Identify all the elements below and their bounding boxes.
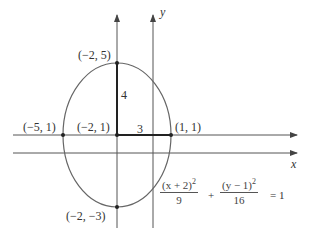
equation-term-1: (x + 2)2 9 [160, 178, 198, 206]
equation-term-2: (y − 1)2 16 [220, 178, 258, 206]
point-top [115, 61, 119, 65]
label-center-point: (−2, 1) [77, 121, 110, 133]
exponent: 2 [252, 177, 256, 186]
point-left [61, 133, 65, 137]
label-left-point: (−5, 1) [23, 121, 56, 133]
semi-major-label: 4 [121, 89, 127, 101]
ellipse-equation: (x + 2)2 9 + (y − 1)2 16 = 1 [160, 178, 310, 212]
term1-numerator: (x + 2) [162, 179, 192, 191]
equation-rhs: = 1 [270, 190, 284, 201]
label-right-point: (1, 1) [175, 121, 201, 133]
label-top-point: (−2, 5) [78, 49, 111, 61]
point-right [169, 133, 173, 137]
term2-denominator: 16 [234, 193, 245, 206]
exponent: 2 [192, 177, 196, 186]
x-axis-label: x [291, 158, 296, 170]
semi-minor-label: 3 [137, 123, 143, 135]
term1-denominator: 9 [176, 193, 182, 206]
label-bottom-point: (−2, −3) [66, 210, 106, 222]
y-axis-label: y [160, 6, 165, 18]
point-center [115, 133, 119, 137]
term2-numerator: (y − 1) [222, 179, 252, 191]
point-bottom [115, 205, 119, 209]
equation-plus: + [208, 190, 214, 201]
